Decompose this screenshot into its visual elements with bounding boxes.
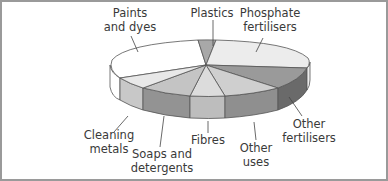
label-phosphate-2: fertilisers xyxy=(243,20,297,34)
label-cleaning-2: metals xyxy=(89,142,128,156)
label-phosphate-1: Phosphate xyxy=(240,6,300,20)
label-paints-1: Paints xyxy=(113,6,147,20)
slice-side-fibres xyxy=(190,96,225,119)
label-cleaning-1: Cleaning xyxy=(84,128,134,142)
label-soaps-1: Soaps and xyxy=(132,147,192,161)
label-other-uses-1: Other xyxy=(240,141,273,155)
label-plastics: Plastics xyxy=(190,6,233,20)
label-other-fert-2: fertilisers xyxy=(282,131,336,145)
label-other-fert-1: Other xyxy=(293,117,326,131)
label-paints-2: and dyes xyxy=(104,20,156,34)
slice-phosphate xyxy=(206,40,309,68)
label-fibres: Fibres xyxy=(191,133,225,147)
label-soaps-2: detergents xyxy=(131,161,194,175)
pie-chart: Paints and dyes Plastics Phosphate ferti… xyxy=(0,0,388,181)
label-other-uses-2: uses xyxy=(243,155,269,169)
